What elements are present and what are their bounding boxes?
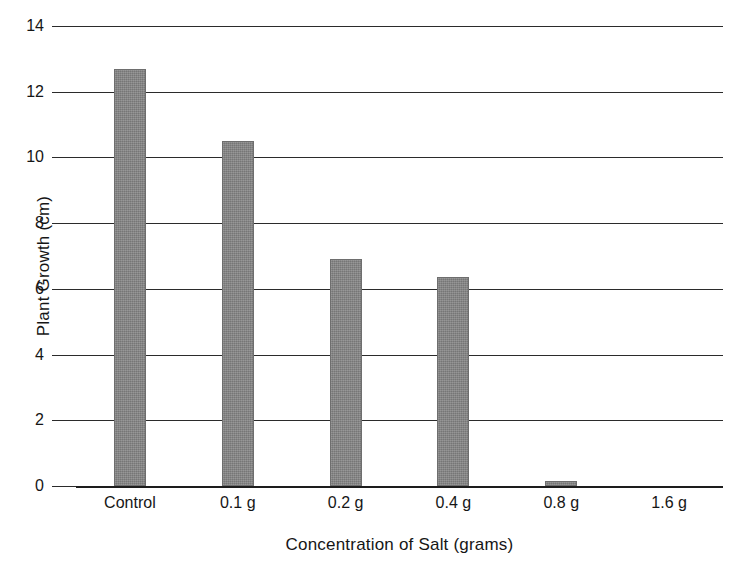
y-axis-tick	[52, 26, 76, 27]
y-axis-tick-label: 0	[0, 477, 44, 495]
y-axis-tick	[52, 486, 76, 487]
y-axis-tick	[52, 92, 76, 93]
plot-area	[76, 26, 723, 486]
gridline	[76, 26, 723, 27]
gridline	[76, 92, 723, 93]
y-axis-tick-label: 10	[0, 148, 44, 166]
x-axis-tick-label: 0.8 g	[543, 494, 579, 512]
gridline	[76, 420, 723, 421]
gridline	[76, 289, 723, 290]
y-axis-tick	[52, 420, 76, 421]
y-axis-tick	[52, 157, 76, 158]
gridline	[76, 157, 723, 158]
x-axis-tick-label: 0.4 g	[436, 494, 472, 512]
x-axis-tick-label: 1.6 g	[651, 494, 687, 512]
y-axis-tick-label: 12	[0, 83, 44, 101]
x-axis-tick-label: 0.1 g	[220, 494, 256, 512]
y-axis-tick-label: 6	[0, 280, 44, 298]
x-axis-baseline	[76, 486, 723, 488]
bar-chart: Plant Growth (cm) 02468101214 Control0.1…	[0, 0, 733, 570]
y-axis-tick-label: 14	[0, 17, 44, 35]
x-axis-tick-labels: Control0.1 g0.2 g0.4 g0.8 g1.6 g	[76, 494, 723, 520]
gridline	[76, 355, 723, 356]
y-axis-tick-label: 8	[0, 214, 44, 232]
gridline	[76, 223, 723, 224]
y-axis-tick	[52, 355, 76, 356]
y-axis-tick-label: 2	[0, 411, 44, 429]
y-axis-title: Plant Growth (cm)	[34, 126, 54, 406]
y-axis-tick	[52, 289, 76, 290]
x-axis-title: Concentration of Salt (grams)	[76, 535, 723, 555]
y-axis-tick-label: 4	[0, 346, 44, 364]
x-axis-tick-label: 0.2 g	[328, 494, 364, 512]
x-axis-tick-label: Control	[104, 494, 156, 512]
y-axis-tick	[52, 223, 76, 224]
